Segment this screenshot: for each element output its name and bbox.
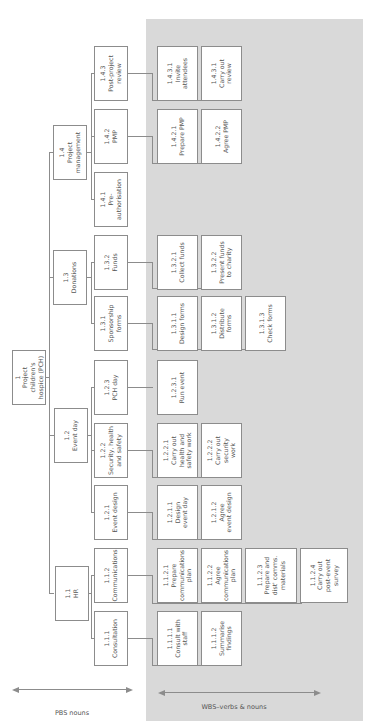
node-label: Prepare PMP bbox=[178, 117, 186, 156]
node-label: Funds bbox=[111, 253, 119, 271]
work-package: 1.3.1.3 Check forms bbox=[245, 296, 286, 351]
node-label: Consultation bbox=[111, 619, 119, 658]
node-label: Sponsorship forms bbox=[107, 305, 123, 343]
work-package: 1.1.2.3 Prepare and dist' comms. materia… bbox=[245, 548, 297, 603]
node-label: PCH day bbox=[111, 374, 119, 400]
wbs-node-1-1: 1.1 HR bbox=[55, 566, 89, 621]
node-label: Communications bbox=[111, 550, 119, 602]
node-label: PMP bbox=[111, 130, 119, 143]
node-code: 1.1.1.2 bbox=[210, 628, 218, 650]
wbs-node-1-4-3: 1.4.3 Post-project review bbox=[94, 46, 128, 101]
node-label: Prepare communications plan bbox=[170, 550, 193, 601]
connector bbox=[152, 262, 153, 289]
node-label: HR bbox=[72, 589, 80, 598]
wbs-arrow-down-icon bbox=[314, 690, 321, 696]
connector bbox=[128, 73, 153, 74]
node-label: Event design bbox=[111, 492, 119, 532]
wbs-diagram: 1 Project children's hospice (PCH) 1.1 H… bbox=[0, 0, 368, 726]
work-package: 1.1.1.2 Summarise findings bbox=[201, 611, 242, 666]
connector bbox=[152, 136, 153, 164]
connector bbox=[152, 450, 153, 478]
node-label: Design event day bbox=[174, 497, 190, 528]
node-label: Agree event design bbox=[218, 492, 234, 532]
node-label: Carry out post-event survey bbox=[316, 559, 339, 592]
node-code: 1.2.2.1 bbox=[162, 440, 170, 462]
node-code: 1.4.1 bbox=[99, 192, 107, 208]
wbs-node-1-1-1: 1.1.1 Consultation bbox=[94, 611, 128, 666]
work-package: 1.4.2.1 Prepare PMP bbox=[157, 109, 198, 164]
wbs-node-1-3-2: 1.3.2 Funds bbox=[94, 235, 128, 290]
work-package: 1.3.2.2 Present funds to charity bbox=[201, 235, 242, 290]
node-label: Collect funds bbox=[178, 242, 186, 282]
pbs-axis-label: PBS nouns bbox=[55, 709, 89, 717]
wbs-node-1-2: 1.2 Event day bbox=[54, 408, 88, 463]
node-label: Design forms bbox=[178, 303, 186, 344]
node-label: Summarise findings bbox=[218, 621, 234, 656]
wbs-node-1-3: 1.3 Donations bbox=[53, 250, 87, 305]
wbs-node-1-4: 1.4 Project management bbox=[53, 125, 87, 180]
node-code: 1.3.1.3 bbox=[258, 313, 266, 335]
connector bbox=[152, 323, 153, 350]
node-code: 1.3.2.2 bbox=[210, 252, 218, 274]
node-label: Carry out review bbox=[218, 59, 234, 88]
node-label: Pre- authorisation bbox=[107, 179, 123, 220]
node-code: 1.3.1.2 bbox=[210, 313, 218, 335]
connector bbox=[128, 512, 153, 513]
connector bbox=[152, 576, 153, 604]
work-package: 1.2.1.2 Agree event design bbox=[201, 485, 242, 540]
node-label: Agree PMP bbox=[222, 120, 230, 153]
node-label: Agree communications plan bbox=[214, 550, 237, 601]
node-code: 1.4.2.1 bbox=[170, 126, 178, 148]
node-label: Present funds to charity bbox=[218, 241, 234, 283]
connector bbox=[91, 575, 92, 639]
node-code: 1.4.3 bbox=[99, 66, 107, 82]
node-code: 1.4 bbox=[58, 148, 66, 158]
node-label: Security, health and safety bbox=[107, 426, 123, 475]
wbs-node-1-3-1: 1.3.1 Sponsorship forms bbox=[94, 296, 128, 351]
node-code: 1.1.2.2 bbox=[206, 565, 214, 587]
connector bbox=[128, 262, 153, 263]
node-label: Invite attendees bbox=[174, 49, 190, 98]
node-label: Post-project review bbox=[107, 55, 123, 92]
work-package: 1.1.1.1 Consult with staff bbox=[157, 611, 198, 666]
connector bbox=[128, 638, 153, 639]
node-code: 1.4.2 bbox=[103, 129, 111, 145]
work-package: 1.2.2.2 Carry out security work bbox=[201, 423, 242, 478]
node-code: 1.4.3.1 bbox=[166, 63, 174, 85]
connector bbox=[152, 603, 302, 604]
node-code: 1.1.2 bbox=[103, 568, 111, 584]
wbs-node-1-4-1: 1.4.1 Pre- authorisation bbox=[94, 172, 128, 227]
work-package: 1.1.2.1 Prepare communications plan bbox=[157, 548, 198, 603]
node-code: 1.1.2.1 bbox=[162, 565, 170, 587]
work-package: 1.3.1.1 Design forms bbox=[157, 296, 198, 351]
node-label: Run event bbox=[178, 372, 186, 403]
node-code: 1.1 bbox=[64, 589, 72, 599]
node-code: 1.2.2 bbox=[99, 443, 107, 459]
wbs-axis-label: WBS–verbs & nouns bbox=[201, 703, 266, 711]
wbs-node-1-2-3: 1.2.3 PCH day bbox=[94, 360, 128, 415]
node-code: 1.2.1 bbox=[103, 505, 111, 521]
node-code: 1.2.1.2 bbox=[210, 502, 218, 524]
node-label: Carry out health and safety work bbox=[170, 432, 193, 468]
pbs-axis bbox=[14, 689, 130, 690]
connector bbox=[152, 512, 153, 540]
node-code: 1.3.2.1 bbox=[170, 252, 178, 274]
node-label: Project management bbox=[66, 132, 82, 173]
connector bbox=[128, 387, 153, 388]
connector bbox=[152, 638, 153, 666]
node-label: Consult with staff bbox=[174, 619, 190, 657]
node-label: Prepare and dist' comms. materials bbox=[263, 556, 286, 595]
node-code: 1.1.2.3 bbox=[256, 565, 264, 587]
node-code: 1.3.1 bbox=[99, 316, 107, 332]
connector bbox=[128, 450, 153, 451]
node-label: Carry out security work bbox=[214, 436, 237, 465]
node-code: 1.4.2.2 bbox=[214, 126, 222, 148]
node-code: 1 bbox=[14, 376, 22, 380]
wbs-node-root: 1 Project children's hospice (PCH) bbox=[12, 350, 46, 405]
work-package: 1.3.2.1 Collect funds bbox=[157, 235, 198, 290]
node-label: Check forms bbox=[266, 304, 274, 343]
node-code: 1.4.3.1 bbox=[210, 63, 218, 85]
connector bbox=[152, 73, 153, 101]
node-code: 1.2.3 bbox=[103, 380, 111, 396]
node-code: 1.3 bbox=[62, 273, 70, 283]
